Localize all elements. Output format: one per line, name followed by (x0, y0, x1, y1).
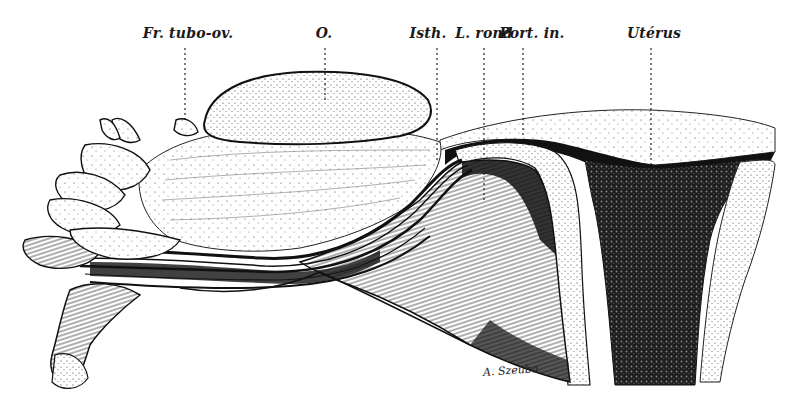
label-fr-tubo-ov: Fr. tubo-ov. (143, 25, 233, 41)
anatomical-figure: Fr. tubo-ov. O. Isth. L. rond Port. in. … (0, 0, 797, 408)
label-isthmus: Isth. (410, 25, 447, 41)
ovary (204, 72, 431, 145)
label-uterus: Utérus (627, 25, 681, 41)
label-portion-interstitielle: Port. in. (499, 25, 564, 41)
anatomy-drawing (0, 0, 797, 408)
label-ovary: O. (316, 25, 333, 41)
